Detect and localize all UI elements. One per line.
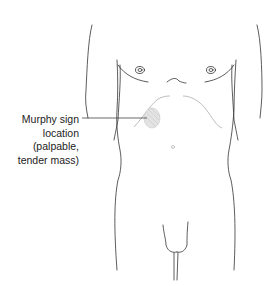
umbilicus-icon bbox=[171, 146, 174, 149]
label-line-1: Murphy sign bbox=[0, 113, 79, 127]
murphy-sign-label: Murphy sign location (palpable, tender m… bbox=[0, 113, 79, 167]
torso-diagram: Murphy sign location (palpable, tender m… bbox=[0, 0, 277, 286]
label-line-3: (palpable, bbox=[0, 140, 79, 154]
label-line-4: tender mass) bbox=[0, 154, 79, 168]
label-line-2: location bbox=[0, 127, 79, 141]
